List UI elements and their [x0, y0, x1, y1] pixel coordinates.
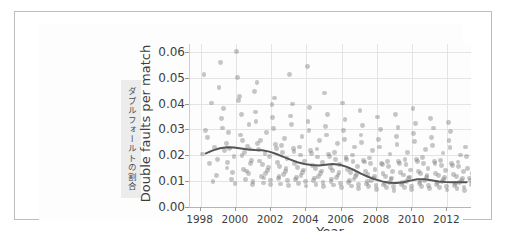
x-tick-mark	[200, 207, 201, 211]
y-tick-mark	[185, 104, 189, 105]
figure-frame: ダブルフォールトの割合 Double faults per match 0.00…	[14, 11, 492, 220]
x-tick-mark	[376, 207, 377, 211]
plot-inner	[190, 44, 471, 207]
y-tick-label: 0.05	[143, 71, 185, 85]
x-tick-mark	[305, 207, 306, 211]
y-tick-mark	[185, 52, 189, 53]
x-axis-line	[189, 207, 471, 208]
y-tick-mark	[185, 129, 189, 130]
y-tick-label: 0.04	[143, 97, 185, 111]
x-tick-mark	[411, 207, 412, 211]
figure-canvas: ダブルフォールトの割合 Double faults per match 0.00…	[39, 24, 463, 220]
y-tick-mark	[185, 181, 189, 182]
y-tick-mark	[185, 78, 189, 79]
y-tick-label: 0.02	[143, 148, 185, 162]
y-tick-label: 0.01	[143, 174, 185, 188]
x-tick-mark	[446, 207, 447, 211]
y-tick-label: 0.03	[143, 122, 185, 136]
x-tick-mark	[341, 207, 342, 211]
plot-area	[189, 44, 471, 207]
x-tick-mark	[235, 207, 236, 211]
x-tick-mark	[270, 207, 271, 211]
y-tick-mark	[185, 155, 189, 156]
x-axis-title: Year	[189, 224, 471, 231]
trend-line	[190, 44, 471, 207]
y-tick-label: 0.06	[143, 45, 185, 59]
screenshot-root: ダブルフォールトの割合 Double faults per match 0.00…	[0, 0, 508, 231]
y-tick-label: 0.00	[143, 200, 185, 214]
y-tick-mark	[185, 207, 189, 208]
japanese-axis-caption-text: ダブルフォールトの割合	[125, 87, 137, 192]
